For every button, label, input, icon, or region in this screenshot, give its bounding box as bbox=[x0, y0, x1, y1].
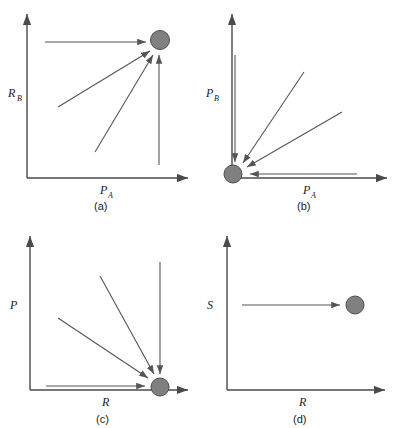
y-axis-label: R bbox=[7, 86, 16, 100]
panel-a: R B P A (a) bbox=[0, 0, 197, 214]
y-axis-label-subscript: B bbox=[17, 94, 22, 103]
arrow-diagonal-from-upper-left-shallow bbox=[58, 318, 148, 378]
y-axis-label-subscript: B bbox=[214, 94, 219, 103]
attractor-marker bbox=[346, 296, 364, 314]
arrow-diagonal-from-lower-left-shallow bbox=[58, 51, 150, 107]
y-axis-label: S bbox=[207, 298, 213, 312]
attractor-marker bbox=[151, 31, 170, 50]
attractor-marker bbox=[224, 165, 242, 183]
x-axis-label-subscript: A bbox=[310, 191, 316, 200]
x-axis-label: R bbox=[298, 395, 307, 409]
arrow-diagonal-from-lower-left-steep bbox=[95, 55, 153, 152]
x-axis-label: P bbox=[302, 183, 311, 197]
x-axis-label: R bbox=[101, 395, 110, 409]
panel-caption: (d) bbox=[293, 413, 306, 425]
arrow-diagonal-from-upper-left-steep bbox=[100, 276, 154, 374]
y-axis-label: P bbox=[205, 86, 214, 100]
x-axis-label: P bbox=[99, 183, 108, 197]
panel-caption: (b) bbox=[297, 200, 310, 212]
figure-container: R B P A (a) P B bbox=[0, 0, 395, 428]
panel-d: S R (d) bbox=[197, 214, 394, 428]
y-axis-label: P bbox=[9, 298, 18, 312]
panel-caption: (c) bbox=[96, 413, 109, 425]
panel-caption: (a) bbox=[94, 200, 107, 212]
arrow-diagonal-from-upper-right-steep bbox=[243, 72, 304, 163]
arrow-diagonal-from-upper-right-shallow bbox=[247, 112, 342, 167]
x-axis-label-subscript: A bbox=[107, 191, 113, 200]
panel-b: P B P A (b) bbox=[197, 0, 394, 214]
panel-c: P R (c) bbox=[0, 214, 197, 428]
attractor-marker bbox=[151, 378, 169, 396]
